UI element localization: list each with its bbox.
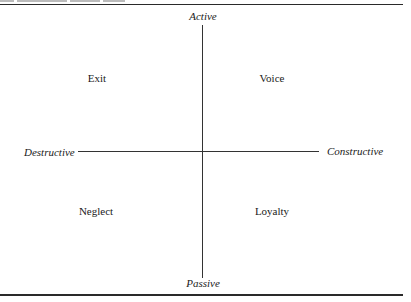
truncated-caption <box>0 0 150 3</box>
top-rule <box>0 4 403 5</box>
axis-label-active: Active <box>189 10 216 22</box>
axis-label-destructive: Destructive <box>24 146 75 158</box>
quadrant-neglect: Neglect <box>79 205 113 217</box>
axis-label-passive: Passive <box>186 277 220 289</box>
bottom-rule <box>0 294 403 296</box>
axis-label-constructive: Constructive <box>327 145 383 157</box>
quadrant-exit: Exit <box>88 72 106 84</box>
quadrant-loyalty: Loyalty <box>255 205 289 217</box>
quadrant-voice: Voice <box>260 72 285 84</box>
horizontal-axis <box>78 151 319 152</box>
